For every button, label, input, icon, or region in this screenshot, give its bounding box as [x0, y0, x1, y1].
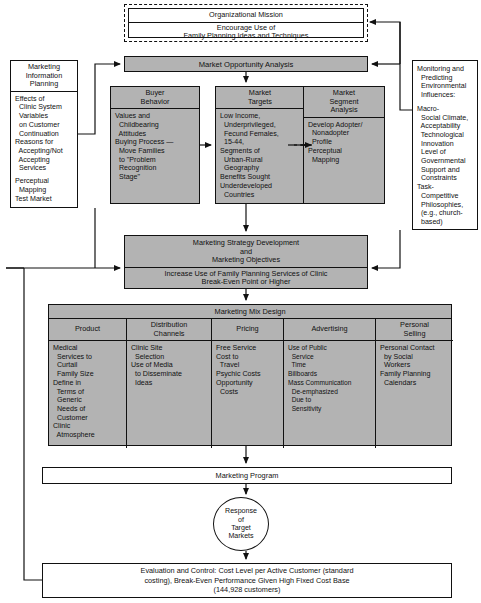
market-segment-analysis-header: Market Segment Analysis — [304, 87, 384, 118]
marketing-mix-design-title: Marketing Mix Design — [49, 305, 451, 319]
text-line: based) — [417, 218, 473, 227]
text-line: Variables — [15, 112, 73, 121]
text-line: Perceptual — [308, 147, 380, 156]
text-line: Family Size — [53, 370, 122, 379]
text-line: Develop Adopter/ — [308, 121, 380, 130]
text-line: Accepting — [15, 156, 73, 165]
text-line: Constraints — [417, 174, 473, 183]
objective-line2: Break-Even Point or Higher — [127, 278, 365, 287]
text-line: Childbearing — [115, 121, 195, 130]
mon-header-line2: Predicting — [417, 74, 473, 83]
text-line: Services — [15, 164, 73, 173]
text-line: Segments of — [220, 147, 300, 156]
response-line2: of — [225, 516, 257, 524]
text-line: Technological — [417, 131, 473, 140]
text-line: De-emphasized — [288, 388, 371, 397]
response-line3: Target — [225, 524, 257, 532]
mix-column: DistributionChannelsClinic Site Selectio… — [127, 319, 212, 448]
line-feedback-left — [24, 268, 42, 580]
market-opportunity-analysis-box: Market Opportunity Analysis — [124, 56, 368, 72]
text-line: Clinic Site — [131, 344, 207, 353]
market-segment-analysis-box: Market Segment Analysis Develop Adopter/… — [303, 86, 385, 204]
text-line: Support and — [417, 166, 473, 175]
text-line: Nonadopter — [308, 129, 380, 138]
mix-column: PersonalSellingPersonal Contact by Socia… — [376, 319, 453, 448]
text-line: Billboards — [288, 370, 371, 379]
mix-column-header: Product — [49, 319, 126, 341]
mix-column: AdvertisingUse of Public Service TimeBil… — [284, 319, 376, 448]
monitoring-environment-items: Macro- Social Climate, Acceptability Tec… — [413, 102, 477, 229]
mon-header-line1: Monitoring and — [417, 65, 473, 74]
organizational-mission-line2: Family Planning Ideas and Techniques — [131, 32, 361, 41]
marketing-program-box: Marketing Program — [42, 467, 452, 484]
monitoring-environment-box: Monitoring and Predicting Environmental … — [412, 60, 478, 230]
text-line: Family Planning — [380, 370, 449, 379]
response-of-target-markets-circle: Response of Target Markets — [213, 497, 269, 551]
marketing-strategy-box: Marketing Strategy Development and Marke… — [124, 235, 368, 289]
text-line: Opportunity — [216, 379, 279, 388]
mix-column-items: Free ServiceCost to TravelPsychic CostsO… — [212, 341, 283, 398]
text-line: Medical — [53, 344, 122, 353]
mix-column-header-line2: Channels — [128, 330, 210, 339]
text-line: Governmental — [417, 157, 473, 166]
text-line: Philosophies, — [417, 201, 473, 210]
mix-column-items: Clinic Site SelectionUse of Media to Dis… — [127, 341, 211, 390]
text-line: Buying Process — — [115, 138, 195, 147]
mix-column-header: Pricing — [212, 319, 283, 341]
response-line1: Response — [225, 507, 257, 515]
organizational-mission-header: Organizational Mission — [129, 9, 363, 23]
mix-column-header-line2: Selling — [377, 330, 452, 339]
market-targets-header: Market Targets — [216, 87, 304, 109]
text-line: Mapping — [308, 156, 380, 165]
text-line: Time — [288, 361, 371, 370]
text-line: Perceptual — [15, 177, 73, 186]
arrow-env-to-strategy — [372, 230, 400, 268]
text-line: Clinic System — [15, 103, 73, 112]
text-line: by Social — [380, 353, 449, 362]
buyer-behavior-items: Values and Childbearing AttitudesBuying … — [111, 109, 199, 184]
text-line: Values and — [115, 112, 195, 121]
text-line: Use of Public — [288, 344, 371, 353]
text-line: Stage" — [115, 173, 195, 182]
text-line: Countries — [220, 191, 300, 200]
text-line: Curtail — [53, 361, 122, 370]
text-line: Social Climate, — [417, 114, 473, 123]
text-line: Task- — [417, 183, 473, 192]
text-line: Move Families — [115, 147, 195, 156]
response-line4: Markets — [225, 532, 257, 540]
text-line: Test Market — [15, 195, 73, 204]
text-line: Psychic Costs — [216, 370, 279, 379]
text-line: Ideas — [131, 379, 207, 388]
strategy-line3: Marketing Objectives — [127, 256, 365, 265]
text-line: Geography — [220, 164, 300, 173]
marketing-information-planning-items: Effects of Clinic System Variables on Cu… — [11, 92, 77, 205]
mon-header-line4: Influences: — [417, 91, 473, 100]
mix-column-header-line1: Advertising — [285, 325, 374, 334]
text-line: Terms of — [53, 388, 122, 397]
evaluation-line2: costing), Break-Even Performance Given H… — [141, 576, 354, 586]
text-line: Underprivileged, — [220, 121, 300, 130]
text-line: Acceptability — [417, 122, 473, 131]
text-line: Selection — [131, 353, 207, 362]
text-line: Personal Contact — [380, 344, 449, 353]
ms-header-line3: Analysis — [305, 106, 383, 115]
organizational-mission-inner: Organizational Mission Encourage Use of … — [128, 8, 364, 38]
text-line: Continuation — [15, 130, 73, 139]
diagram-canvas: Organizational Mission Encourage Use of … — [0, 0, 481, 603]
market-targets-box: Market Targets Low Income, Underprivileg… — [215, 86, 305, 204]
marketing-information-planning-header: Marketing Information Planning — [11, 61, 77, 92]
text-line: Define in — [53, 379, 122, 388]
text-line: Needs of — [53, 405, 122, 414]
text-line: Costs — [216, 388, 279, 397]
text-line: Underdeveloped — [220, 182, 300, 191]
mix-column-header-line1: Product — [50, 325, 125, 334]
mix-column-header: DistributionChannels — [127, 319, 211, 341]
text-line: Use of Media — [131, 361, 207, 370]
text-line: Travel — [216, 361, 279, 370]
text-line: Service — [288, 353, 371, 362]
mix-column-header-line1: Pricing — [213, 325, 282, 334]
text-line: to "Problem — [115, 156, 195, 165]
buyer-behavior-box: Buyer Behavior Values and Childbearing A… — [110, 86, 200, 204]
mix-column: ProductMedical Services to Curtail Famil… — [49, 319, 127, 448]
evaluation-line1: Evaluation and Control: Cost Level per A… — [141, 566, 354, 576]
